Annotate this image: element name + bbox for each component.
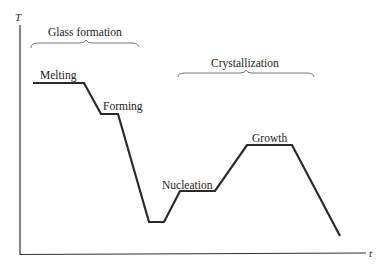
x-axis	[20, 253, 366, 255]
glass-formation-label: Glass formation	[48, 27, 122, 39]
crystallization-bracket	[178, 70, 314, 77]
melting-label: Melting	[40, 70, 76, 82]
temperature-curve	[33, 83, 340, 236]
growth-label: Growth	[252, 133, 287, 145]
temperature-time-diagram	[0, 0, 385, 269]
crystallization-label: Crystallization	[211, 58, 279, 70]
x-axis-label: t	[369, 248, 372, 259]
nucleation-label: Nucleation	[162, 180, 212, 192]
y-axis-label: T	[15, 12, 21, 23]
glass-formation-bracket	[31, 40, 139, 48]
forming-label: Forming	[103, 101, 143, 113]
